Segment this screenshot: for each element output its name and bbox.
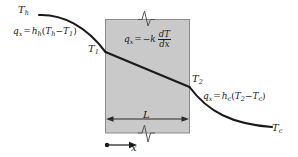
derivative-fraction: dTdx	[158, 30, 171, 50]
label-t-cold: Tc	[272, 123, 282, 134]
diagram-canvas	[0, 0, 298, 157]
equation-conduction: qx = −kdTdx	[124, 30, 171, 50]
label-t-surface-2: T2	[192, 74, 203, 85]
heat-transfer-diagram: Th Tc T1 T2 qx = hh(Th−T1) qx = −kdTdx q…	[0, 0, 298, 157]
equation-hot-convection: qx = hh(Th−T1)	[13, 27, 77, 37]
label-t-hot: Th	[18, 5, 29, 16]
label-thickness: L	[143, 110, 150, 120]
label-x-axis: x	[131, 143, 137, 153]
label-t-surface-1: T1	[88, 44, 99, 55]
equation-cold-convection: qx = hc(T2−Tc)	[203, 92, 266, 102]
